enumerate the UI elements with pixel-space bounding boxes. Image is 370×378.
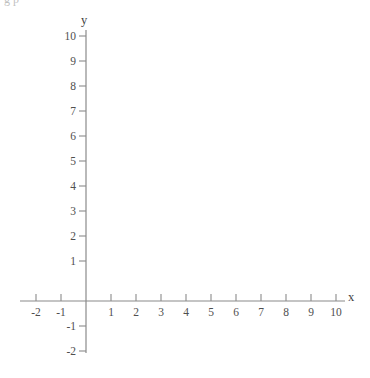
y-tick-label: -2: [52, 346, 76, 358]
y-tick-label: 9: [52, 56, 76, 68]
y-tick-label: 4: [52, 181, 76, 193]
x-tick-label: 4: [176, 307, 196, 319]
coordinate-plane: g p: [0, 0, 370, 378]
y-tick-label: 8: [52, 81, 76, 93]
y-axis-ticks: [79, 36, 86, 351]
y-axis-label: y: [81, 14, 87, 27]
y-tick-label: -1: [52, 321, 76, 333]
y-tick-label: 3: [52, 206, 76, 218]
y-tick-label: 6: [52, 131, 76, 143]
y-tick-label: 10: [52, 31, 76, 43]
x-tick-label: 10: [325, 307, 347, 319]
y-tick-label: 5: [52, 156, 76, 168]
y-tick-label: 2: [52, 231, 76, 243]
y-tick-label: 7: [52, 106, 76, 118]
x-tick-label: 2: [126, 307, 146, 319]
x-axis-label: x: [348, 291, 354, 304]
x-tick-label: 3: [151, 307, 171, 319]
x-tick-label: 5: [201, 307, 221, 319]
x-tick-label: 8: [276, 307, 296, 319]
x-tick-label: 6: [226, 307, 246, 319]
x-tick-label: 1: [101, 307, 121, 319]
x-tick-label: -1: [51, 307, 71, 319]
x-tick-label: -2: [26, 307, 46, 319]
x-tick-label: 9: [301, 307, 321, 319]
x-axis-ticks: [36, 294, 336, 301]
y-tick-label: 1: [52, 256, 76, 268]
x-tick-label: 7: [251, 307, 271, 319]
